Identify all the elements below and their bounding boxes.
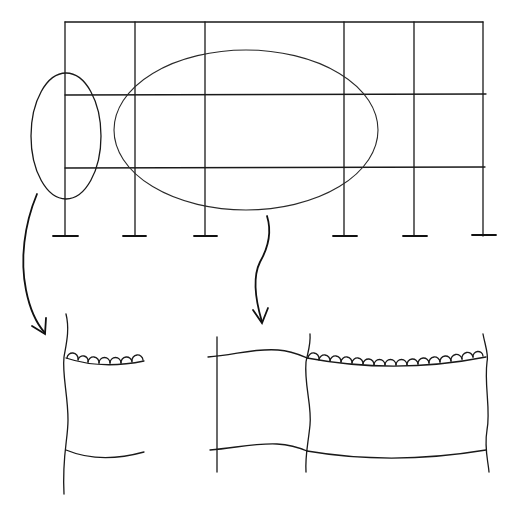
deformed-lower-beam-right-bay [307,450,486,458]
deformed-exterior-column [64,314,68,494]
arrow-to-right-detail [253,216,269,323]
left-highlight-ellipse [31,73,101,199]
deformed-column-right [483,334,489,472]
detail-left [64,314,144,494]
arrow-to-left-detail [23,194,46,334]
diagram-canvas: Sketch of a multi-bay, two-storey struct… [0,0,511,505]
deformed-lower-beam-left-bay [210,444,307,451]
frame-columns [65,22,483,236]
frame-beams [65,22,486,168]
detail-right [208,334,489,472]
fixed-supports [53,235,496,236]
deformed-lower-beam [66,450,144,458]
center-highlight-ellipse [114,50,378,210]
lower-floor-beam [65,167,485,168]
deformed-upper-beam-left-bay [208,350,307,358]
structural-frame [53,22,496,236]
